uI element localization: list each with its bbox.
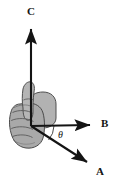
- vector-label-b: B: [101, 118, 108, 129]
- vector-label-a: A: [96, 166, 104, 177]
- vector-arrow-b: [31, 125, 90, 126]
- right-hand-rule-figure: C B A θ: [0, 0, 117, 189]
- hand-thumb: [22, 82, 34, 120]
- vector-label-c: C: [27, 6, 35, 17]
- angle-label-theta: θ: [58, 130, 63, 140]
- vector-diagram-canvas: [0, 0, 117, 189]
